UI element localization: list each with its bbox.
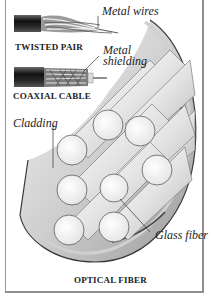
glass-fiber-label: Glass fiber bbox=[155, 229, 208, 241]
cable-types-figure: Metal wires TWISTED PAIR Metal shielding… bbox=[0, 0, 211, 299]
twisted-pair-title: TWISTED PAIR bbox=[15, 42, 83, 52]
cladding-label: Cladding bbox=[13, 117, 58, 129]
optical-fiber-title: OPTICAL FIBER bbox=[74, 275, 147, 285]
coaxial-cable-illustration bbox=[14, 56, 107, 87]
metal-wires-label: Metal wires bbox=[102, 5, 159, 17]
metal-shielding-label-line2: shielding bbox=[103, 55, 147, 67]
coaxial-cable-title: COAXIAL CABLE bbox=[13, 91, 91, 101]
